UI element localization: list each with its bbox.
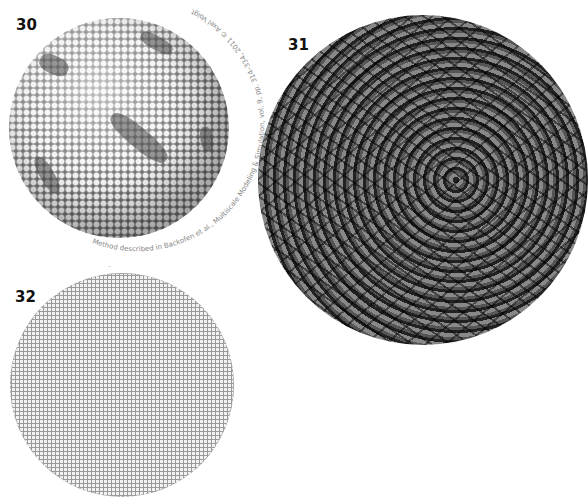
figure-32-disc — [10, 273, 234, 497]
figure-number-32: 32 — [15, 288, 36, 306]
figure-number-30: 30 — [16, 16, 37, 34]
figure-32-top-label: — — [108, 264, 111, 268]
figure-number-31: 31 — [288, 36, 309, 54]
caption-text: Method described in Backofen et al., Mul… — [91, 8, 266, 254]
svg-text:Method described in Backofen e: Method described in Backofen et al., Mul… — [91, 8, 266, 254]
